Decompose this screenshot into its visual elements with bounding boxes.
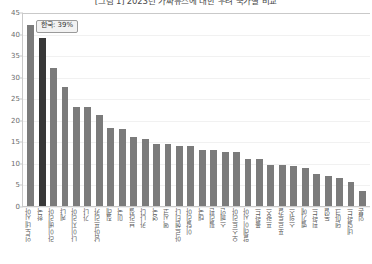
y-axis-tick-label: 10 <box>11 160 20 168</box>
x-axis-label-slot: 말레이시아 <box>242 208 253 264</box>
x-axis-label: 가나 <box>84 208 91 221</box>
x-axis-label-slot: 카나다 <box>139 208 150 264</box>
bar[interactable] <box>119 129 126 206</box>
bar-slot[interactable] <box>254 13 265 206</box>
bar-slot[interactable] <box>25 13 36 206</box>
x-axis-label-slot: 가나 <box>81 208 92 264</box>
x-axis-label: 영국 <box>153 208 160 221</box>
bar-slot[interactable] <box>197 13 208 206</box>
x-axis-label: 덴마크 <box>336 208 343 228</box>
y-axis-tick-label: 40 <box>11 31 20 39</box>
x-axis-label: 카나다 <box>141 208 148 228</box>
x-axis-label: 칠레 <box>107 208 114 221</box>
x-axis-label-slot: 미국 <box>116 208 127 264</box>
bar[interactable] <box>176 146 183 206</box>
x-axis-label-slot: 이탈리아 <box>185 208 196 264</box>
bar[interactable] <box>348 182 355 206</box>
bar[interactable] <box>290 166 297 206</box>
bar[interactable] <box>222 152 229 206</box>
bar-slot[interactable] <box>265 13 276 206</box>
x-axis-label: 나이지리아 <box>72 208 79 242</box>
bar-slot[interactable] <box>128 13 139 206</box>
bar[interactable] <box>84 107 91 206</box>
x-axis-label: 포르투갈 <box>279 208 286 235</box>
bar[interactable] <box>245 159 252 206</box>
x-axis-label: 스위스 <box>290 208 297 228</box>
x-axis-label-slot: 폴란드 <box>253 208 264 264</box>
bar-slot[interactable] <box>185 13 196 206</box>
bar-slot[interactable] <box>71 13 82 206</box>
x-axis-label: 네덜란드 <box>348 208 355 235</box>
bar[interactable] <box>199 150 206 206</box>
bar-slot[interactable] <box>151 13 162 206</box>
x-axis-label: 한국 <box>38 208 45 221</box>
bar-slot[interactable] <box>345 13 356 206</box>
x-axis-label-slot: 나이지리아 <box>70 208 81 264</box>
bar[interactable] <box>165 144 172 206</box>
bar[interactable] <box>62 87 69 206</box>
highlight-tooltip: 한국: 39% <box>36 20 78 33</box>
bar[interactable] <box>256 159 263 206</box>
bar-slot[interactable] <box>36 13 47 206</box>
x-axis-label: 태국 <box>199 208 206 221</box>
bar-slot[interactable] <box>219 13 230 206</box>
bar[interactable] <box>153 144 160 207</box>
bar-slot[interactable] <box>357 13 368 206</box>
bar-slot[interactable] <box>208 13 219 206</box>
bar[interactable] <box>107 128 114 206</box>
x-axis-label-slot: 라이베리아 <box>47 208 58 264</box>
x-axis-label-slot: 남아프리카 <box>93 208 104 264</box>
bar[interactable] <box>359 191 366 206</box>
bar-slot[interactable] <box>162 13 173 206</box>
x-axis-label-slot: 멕시코 <box>162 208 173 264</box>
x-axis-label-slot: 브라질 <box>127 208 138 264</box>
y-axis-tick-label: 0 <box>16 203 20 211</box>
bar-slot[interactable] <box>334 13 345 206</box>
y-axis-tick-label: 35 <box>11 52 20 60</box>
bar[interactable] <box>142 139 149 206</box>
bar[interactable] <box>187 146 194 206</box>
bar-slot[interactable] <box>59 13 70 206</box>
bar-slot[interactable] <box>48 13 59 206</box>
bar-slot[interactable] <box>242 13 253 206</box>
bar[interactable] <box>336 178 343 206</box>
bar[interactable] <box>325 176 332 206</box>
bar-slot[interactable] <box>174 13 185 206</box>
bar-slot[interactable] <box>231 13 242 206</box>
bar-slot[interactable] <box>300 13 311 206</box>
bar[interactable] <box>73 107 80 206</box>
bar[interactable] <box>27 25 34 206</box>
bar[interactable] <box>302 168 309 206</box>
bar-slot[interactable] <box>311 13 322 206</box>
bar-slot[interactable] <box>82 13 93 206</box>
chart-title: [그림 1] 2023년 가짜뉴스에 대한 우려 국가별 비교 <box>0 0 372 6</box>
x-axis-label-slot: 케냐 <box>58 208 69 264</box>
bar[interactable] <box>96 115 103 206</box>
bar-slot[interactable] <box>277 13 288 206</box>
x-axis-label: 멕시코 <box>164 208 171 228</box>
x-axis-label-slot: 스위스 <box>288 208 299 264</box>
x-axis-label-slot: 포르투갈 <box>276 208 287 264</box>
bar[interactable] <box>233 152 240 206</box>
x-axis-label-slot: 벨기에 <box>299 208 310 264</box>
bar[interactable] <box>50 68 57 206</box>
x-axis-label: 이탈리아 <box>187 208 194 235</box>
x-axis-label: 프랑스 <box>267 208 274 228</box>
x-axis-label-slot: 네덜란드 <box>345 208 356 264</box>
x-axis-label: 브라질 <box>130 208 137 228</box>
bar[interactable] <box>279 165 286 206</box>
bar-slot[interactable] <box>288 13 299 206</box>
bar-slot[interactable] <box>139 13 150 206</box>
y-axis-tick-label: 5 <box>16 181 20 189</box>
bar-slot[interactable] <box>94 13 105 206</box>
bar-slot[interactable] <box>322 13 333 206</box>
bar[interactable] <box>210 150 217 206</box>
bar-highlighted[interactable] <box>39 38 46 206</box>
bar-slot[interactable] <box>117 13 128 206</box>
bar[interactable] <box>130 137 137 206</box>
bar[interactable] <box>313 174 320 206</box>
bar-slot[interactable] <box>105 13 116 206</box>
x-axis-label: 핀란드 <box>313 208 320 228</box>
x-axis-label-slot: 스페인 <box>219 208 230 264</box>
bar[interactable] <box>267 165 274 206</box>
